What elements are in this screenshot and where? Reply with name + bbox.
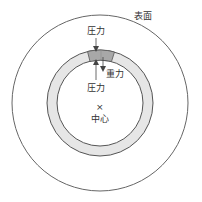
gravity-label: 重力 bbox=[106, 68, 124, 79]
center-mark: × bbox=[96, 102, 104, 112]
pressure-bottom-label: 圧力 bbox=[87, 82, 105, 93]
pressure-top-label: 圧力 bbox=[87, 25, 105, 36]
center-label: 中心 bbox=[91, 113, 109, 124]
surface-label: 表面 bbox=[134, 10, 152, 21]
diagram-canvas: 表面 圧力 重力 圧力 × 中心 bbox=[0, 0, 202, 202]
